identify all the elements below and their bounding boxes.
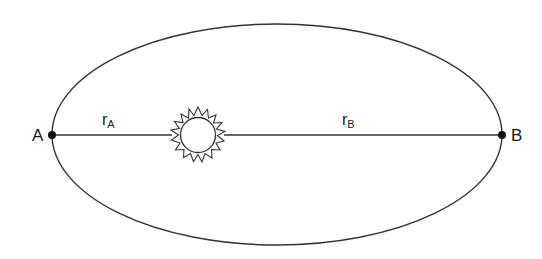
point-b-marker (498, 131, 506, 139)
point-a-label: A (32, 126, 44, 145)
orbit-diagram: A B rA rB (0, 0, 542, 259)
radius-a-label: rA (102, 111, 115, 130)
point-a-marker (48, 131, 56, 139)
sun-icon (171, 107, 225, 162)
radius-b-subscript: B (347, 118, 354, 130)
radius-a-subscript: A (107, 118, 115, 130)
radius-b-label: rB (342, 111, 355, 130)
point-b-label: B (511, 126, 522, 145)
